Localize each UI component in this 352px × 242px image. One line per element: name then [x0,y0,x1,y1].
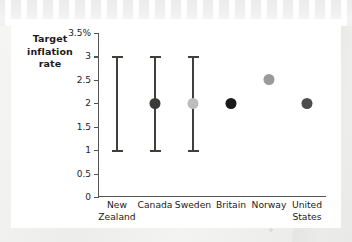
y-axis-tick [94,103,99,104]
x-axis-category-label-line: States [292,211,322,223]
perforation-hole-icon [195,4,204,13]
y-axis-tick [94,174,99,175]
perforation-hole-icon [69,4,78,13]
perforation-hole-icon [242,4,251,13]
perforation-hole-icon [274,4,283,13]
plot-area: 3.5%32.521.510.50 [98,33,326,197]
y-axis-tick [94,80,99,81]
y-axis-tick-label: 0 [85,192,91,202]
perforation-hole-icon [337,4,346,13]
error-bar-cap-upper [112,56,123,57]
x-axis-category-label: Norway [252,199,287,211]
y-axis-tick [94,127,99,128]
error-bar-line [116,56,117,150]
perforation-hole-icon [290,4,299,13]
y-axis-tick-label: 3.5% [68,28,91,38]
perforation-hole-icon [22,4,31,13]
chart-card: Targetinflationrate 3.5%32.521.510.50 Ne… [11,19,341,228]
x-axis-category-label-line: United [292,199,322,211]
perforation-hole-icon [85,4,94,13]
y-axis-tick [94,197,99,198]
data-point-marker[interactable] [302,98,313,109]
error-bar-cap-lower [112,150,123,151]
x-axis-category-label: Canada [138,199,173,211]
x-axis-category-labels: NewZealandCanadaSwedenBritainNorwayUnite… [98,199,326,227]
error-bar-cap-lower [188,150,199,151]
perforation-hole-icon [132,4,141,13]
perforation-hole-icon [258,4,267,13]
perforation-hole-icon [116,4,125,13]
perforation-hole-icon [321,4,330,13]
error-bar-cap-upper [188,56,199,57]
perforation-hole-icon [148,4,157,13]
y-axis-tick-label: 3 [85,51,91,61]
y-axis-tick-label: 1 [85,145,91,155]
error-bar-cap-upper [150,56,161,57]
data-point-marker[interactable] [188,98,199,109]
x-axis-category-label: UnitedStates [292,199,322,222]
y-axis-caption: Targetinflationrate [19,33,81,71]
perforation-hole-icon [6,4,15,13]
data-point-marker[interactable] [264,74,275,85]
perforation-hole-icon [179,4,188,13]
perforation-hole-icon [38,4,47,13]
x-axis-category-label-line: Sweden [175,199,211,211]
perforation-hole-icon [53,4,62,13]
perforation-hole-icon [305,4,314,13]
x-axis-category-label-line: Zealand [98,211,135,223]
y-axis-caption-line: rate [19,58,81,71]
error-bar-cap-lower [150,150,161,151]
perforation-hole-icon [101,4,110,13]
x-axis-category-label-line: New [98,199,135,211]
x-axis-category-label: Sweden [175,199,211,211]
data-point-marker[interactable] [150,98,161,109]
y-axis-tick [94,150,99,151]
perforation-hole-icon [211,4,220,13]
y-axis-tick-label: 2 [85,98,91,108]
y-axis-tick-label: 1.5 [77,122,91,132]
perforation-hole-icon [164,4,173,13]
x-axis-category-label: NewZealand [98,199,135,222]
x-axis-category-label-line: Canada [138,199,173,211]
y-axis-tick [94,56,99,57]
x-axis-category-label: Britain [216,199,246,211]
y-axis-tick-label: 2.5 [77,75,91,85]
x-axis-category-label-line: Britain [216,199,246,211]
x-axis-line [98,196,326,197]
perforation-hole-icon [227,4,236,13]
data-point-marker[interactable] [226,98,237,109]
y-axis-caption-line: inflation [19,46,81,59]
perforation-holes [0,4,352,18]
y-axis-tick-label: 0.5 [77,169,91,179]
y-axis-tick [94,33,99,34]
x-axis-category-label-line: Norway [252,199,287,211]
